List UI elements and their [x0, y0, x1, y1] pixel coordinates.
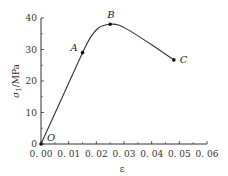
x-tick-label: 0. 01 — [57, 149, 80, 159]
point-c — [172, 58, 176, 62]
x-tick-label: 0. 05 — [168, 149, 191, 159]
x-tick-label: 0. 02 — [85, 149, 108, 159]
x-tick-label: 0. 04 — [140, 149, 163, 159]
point-label-o: O — [47, 132, 55, 143]
x-tick-label: 0. 03 — [113, 149, 136, 159]
y-tick-label: 0 — [31, 139, 37, 149]
key-points: OABC — [39, 9, 188, 146]
point-b — [108, 23, 112, 27]
stress-strain-chart: 0. 000. 010. 020. 030. 040. 050. 0601020… — [0, 0, 228, 176]
point-o — [39, 142, 43, 146]
point-label-c: C — [180, 54, 188, 65]
x-tick-label: 0. 06 — [196, 149, 219, 159]
point-label-b: B — [106, 9, 114, 20]
y-axis-label: σ1/MPa — [11, 63, 23, 98]
stress-strain-curve — [41, 24, 174, 144]
y-tick-label: 30 — [26, 45, 38, 55]
y-tick-label: 40 — [26, 13, 38, 23]
point-a — [81, 51, 85, 55]
x-axis-label: ε — [120, 164, 125, 174]
y-tick-label: 20 — [26, 76, 38, 86]
x-tick-label: 0. 00 — [30, 149, 53, 159]
y-tick-label: 10 — [26, 108, 38, 118]
point-label-a: A — [70, 42, 78, 53]
